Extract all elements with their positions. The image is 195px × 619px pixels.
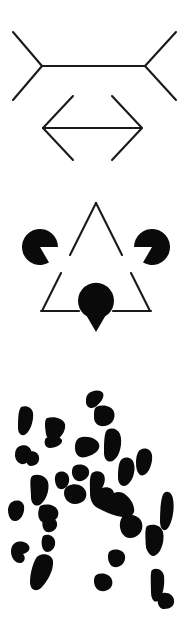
blob bbox=[45, 436, 63, 448]
triangle-edge-upper-left bbox=[70, 203, 96, 255]
blob bbox=[104, 429, 121, 462]
blob bbox=[94, 574, 112, 592]
muller-lyer-panel bbox=[0, 0, 195, 180]
blob bbox=[136, 449, 152, 476]
kanizsa-svg bbox=[0, 180, 195, 360]
kanizsa-triangle-panel bbox=[0, 180, 195, 360]
blob bbox=[64, 484, 86, 504]
dalmatian-panel bbox=[0, 360, 195, 619]
blob bbox=[11, 542, 30, 564]
blob bbox=[30, 475, 48, 506]
triangle-edge-lower-left bbox=[42, 273, 61, 311]
blob bbox=[30, 554, 53, 590]
blob bbox=[75, 437, 99, 458]
dalmatian-svg bbox=[0, 360, 195, 619]
blob bbox=[160, 492, 174, 530]
blob bbox=[26, 451, 39, 466]
blob bbox=[55, 472, 69, 490]
outward-fin-bottom-right bbox=[145, 66, 176, 100]
inward-fin-top-left bbox=[43, 96, 73, 128]
blob bbox=[86, 390, 103, 408]
triangle-edge-upper-right bbox=[96, 203, 122, 255]
inward-fin-bottom-right bbox=[112, 128, 142, 160]
inward-fin-top-right bbox=[112, 96, 142, 128]
blob bbox=[72, 465, 89, 482]
blob-cluster bbox=[8, 390, 174, 609]
inward-fin-bottom-left bbox=[43, 128, 73, 160]
blob bbox=[120, 515, 143, 538]
pacman-top-right bbox=[134, 229, 170, 265]
pacman-bottom bbox=[78, 283, 114, 332]
illusion-figure-page bbox=[0, 0, 195, 619]
triangle-edge-lower-right bbox=[131, 273, 150, 311]
blob bbox=[108, 550, 125, 568]
outward-fin-bottom-left bbox=[13, 66, 42, 100]
pacman-top-left bbox=[22, 229, 58, 265]
inward-fins-figure bbox=[43, 96, 142, 160]
blob bbox=[158, 593, 174, 609]
outward-fin-top-right bbox=[145, 32, 176, 66]
blob bbox=[8, 501, 24, 522]
outward-fin-top-left bbox=[13, 32, 42, 66]
blob bbox=[18, 406, 33, 435]
outward-fins-figure bbox=[13, 32, 176, 100]
blob bbox=[94, 406, 115, 427]
muller-lyer-svg bbox=[0, 0, 195, 180]
blob bbox=[42, 535, 56, 552]
blob bbox=[118, 458, 135, 486]
